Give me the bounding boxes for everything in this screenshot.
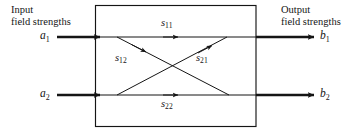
port-label-a1-base: a: [40, 29, 46, 41]
port-label-a2-subscript: 2: [46, 93, 50, 102]
port-label-a2-base: a: [40, 87, 46, 99]
input-caption-line2: field strengths: [11, 16, 71, 28]
port-label-b1-subscript: 1: [326, 35, 330, 44]
port-label-a1-subscript: 1: [46, 35, 50, 44]
port-label-b2: b2: [320, 87, 330, 101]
port-label-b2-subscript: 2: [326, 93, 330, 102]
s-parameter-label-s12: s12: [115, 52, 127, 64]
port-label-a1: a1: [40, 29, 50, 43]
network-box: [96, 6, 257, 127]
input-caption-line1: Input: [11, 4, 71, 16]
port-label-b1: b1: [320, 29, 330, 43]
s22-subscript: 22: [165, 102, 173, 111]
scattering-parameter-diagram: Input field strengths Output field stren…: [0, 0, 351, 138]
output-caption: Output field strengths: [281, 4, 341, 29]
port-label-a2: a2: [40, 87, 50, 101]
s12-subscript: 12: [119, 56, 127, 65]
s-parameter-label-s21: s21: [196, 52, 208, 64]
output-caption-line2: field strengths: [281, 16, 341, 28]
s-parameter-label-s22: s22: [161, 98, 173, 110]
output-caption-line1: Output: [281, 4, 341, 16]
port-label-b1-base: b: [320, 29, 326, 41]
port-label-b2-base: b: [320, 87, 326, 99]
input-caption: Input field strengths: [11, 4, 71, 29]
path-s12-arrowhead: [132, 45, 146, 52]
s11-subscript: 11: [165, 21, 173, 30]
s21-subscript: 21: [200, 56, 208, 65]
s-parameter-label-s11: s11: [161, 17, 173, 29]
